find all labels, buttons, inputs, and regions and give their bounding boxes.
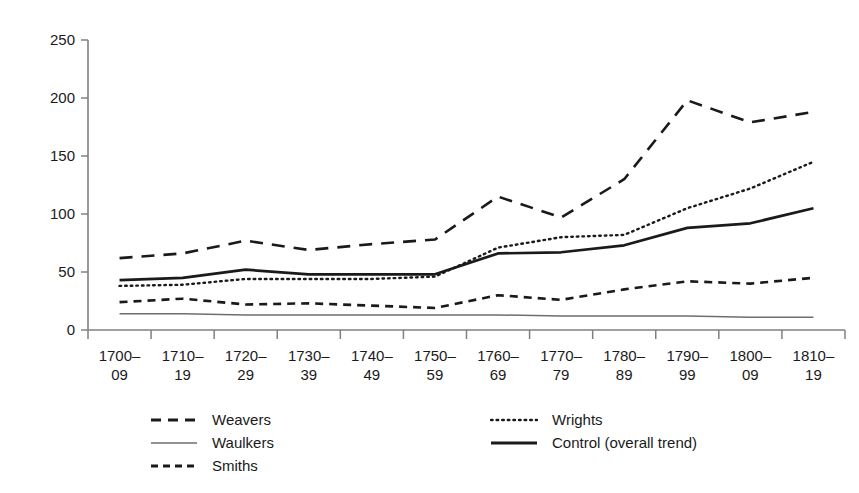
legend-line-swatch-icon xyxy=(490,413,538,427)
x-tick-label-line1: 1810– xyxy=(781,346,845,365)
y-axis-tick-label: 100 xyxy=(29,205,75,222)
x-axis-tick-label: 1710–19 xyxy=(151,346,215,384)
x-axis-tick-label: 1790–99 xyxy=(655,346,719,384)
x-tick-label-line1: 1760– xyxy=(466,346,530,365)
x-tick-label-line1: 1770– xyxy=(529,346,593,365)
x-tick-label-line2: 89 xyxy=(592,365,656,384)
legend-item[interactable]: Control (overall trend) xyxy=(490,431,697,454)
legend-item-label: Weavers xyxy=(212,411,271,428)
x-tick-label-line2: 69 xyxy=(466,365,530,384)
y-axis-tick-label: 0 xyxy=(29,321,75,338)
legend-item-label: Wrights xyxy=(552,411,603,428)
x-tick-label-line1: 1780– xyxy=(592,346,656,365)
legend-item-label: Control (overall trend) xyxy=(552,434,697,451)
x-tick-label-line2: 09 xyxy=(88,365,152,384)
x-axis-tick-label: 1740–49 xyxy=(340,346,404,384)
legend-line-swatch-icon xyxy=(150,413,198,427)
legend-line-swatch-icon xyxy=(490,436,538,450)
x-axis-tick-label: 1810–19 xyxy=(781,346,845,384)
legend-item-label: Smiths xyxy=(212,457,258,474)
y-axis-tick-label: 200 xyxy=(29,89,75,106)
x-tick-label-line1: 1720– xyxy=(214,346,278,365)
legend-column: WeaversWaulkersSmiths xyxy=(150,408,274,477)
legend-item-label: Waulkers xyxy=(212,434,274,451)
x-tick-label-line2: 79 xyxy=(529,365,593,384)
x-tick-label-line1: 1740– xyxy=(340,346,404,365)
x-tick-label-line2: 09 xyxy=(718,365,782,384)
y-axis-tick-label: 150 xyxy=(29,147,75,164)
legend-item[interactable]: Smiths xyxy=(150,454,274,477)
x-tick-label-line2: 39 xyxy=(277,365,341,384)
legend-item[interactable]: Waulkers xyxy=(150,431,274,454)
x-axis-tick-label: 1730–39 xyxy=(277,346,341,384)
x-tick-label-line2: 59 xyxy=(403,365,467,384)
legend-line-swatch-icon xyxy=(150,459,198,473)
x-tick-label-line2: 19 xyxy=(151,365,215,384)
series-line-weavers xyxy=(120,100,814,258)
chart-legend: WeaversWaulkersSmithsWrightsControl (ove… xyxy=(150,408,850,488)
series-line-wrights xyxy=(120,162,814,286)
x-tick-label-line2: 29 xyxy=(214,365,278,384)
x-axis-tick-label: 1780–89 xyxy=(592,346,656,384)
y-axis-tick-label: 50 xyxy=(29,263,75,280)
x-axis-tick-label: 1770–79 xyxy=(529,346,593,384)
series-line-smiths xyxy=(120,278,814,308)
legend-item[interactable]: Weavers xyxy=(150,408,274,431)
x-axis-tick-label: 1750–59 xyxy=(403,346,467,384)
series-line-waulkers xyxy=(120,314,814,317)
x-axis-tick-label: 1760–69 xyxy=(466,346,530,384)
x-tick-label-line2: 19 xyxy=(781,365,845,384)
x-tick-label-line2: 49 xyxy=(340,365,404,384)
x-tick-label-line1: 1730– xyxy=(277,346,341,365)
legend-column: WrightsControl (overall trend) xyxy=(490,408,697,454)
x-tick-label-line1: 1800– xyxy=(718,346,782,365)
x-tick-label-line2: 99 xyxy=(655,365,719,384)
legend-item[interactable]: Wrights xyxy=(490,408,697,431)
y-axis-tick-label: 250 xyxy=(29,31,75,48)
x-tick-label-line1: 1750– xyxy=(403,346,467,365)
chart-figure: 250200150100500 1700–091710–191720–29173… xyxy=(0,0,859,493)
x-tick-label-line1: 1790– xyxy=(655,346,719,365)
legend-line-swatch-icon xyxy=(150,436,198,450)
x-axis-tick-label: 1800–09 xyxy=(718,346,782,384)
x-axis-tick-label: 1700–09 xyxy=(88,346,152,384)
x-tick-label-line1: 1700– xyxy=(88,346,152,365)
x-tick-label-line1: 1710– xyxy=(151,346,215,365)
x-axis-tick-label: 1720–29 xyxy=(214,346,278,384)
